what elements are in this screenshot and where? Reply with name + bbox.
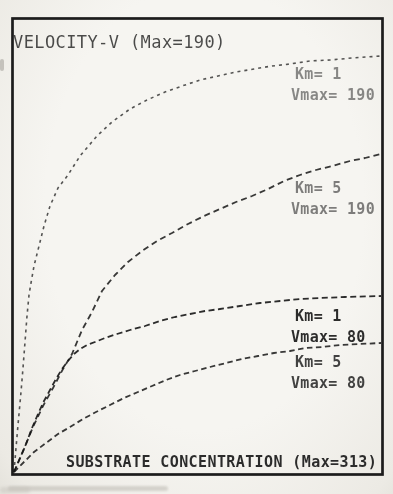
scanned-chart-page: VELOCITY-V (Max=190) SUBSTRATE CONCENTRA… [0, 0, 393, 494]
curve-label-km-1-vmax-80: Km= 1Vmax= 80 [295, 306, 366, 348]
curve-label-km-5-vmax-190: Km= 5Vmax= 190 [295, 178, 375, 220]
curve-label-line: Vmax= 190 [291, 85, 375, 106]
curve-label-line: Vmax= 190 [291, 199, 375, 220]
curve-label-line: Vmax= 80 [291, 373, 366, 394]
curve-label-line: Vmax= 80 [291, 327, 366, 348]
curve-label-km-5-vmax-80: Km= 5Vmax= 80 [295, 352, 366, 394]
mm-curve-km-1-vmax-190 [14, 56, 381, 472]
chart-title: VELOCITY-V (Max=190) [13, 32, 226, 52]
curve-label-line: Km= 1 [295, 64, 375, 85]
curve-label-km-1-vmax-190: Km= 1Vmax= 190 [295, 64, 375, 106]
curve-label-line: Km= 5 [295, 352, 366, 373]
paper-smudge [0, 59, 4, 71]
curve-label-line: Km= 1 [295, 306, 366, 327]
paper-smudge [0, 487, 30, 493]
curve-label-line: Km= 5 [295, 178, 375, 199]
x-axis-label: SUBSTRATE CONCENTRATION (Max=313) [66, 453, 377, 471]
paper-smudge [8, 486, 168, 491]
